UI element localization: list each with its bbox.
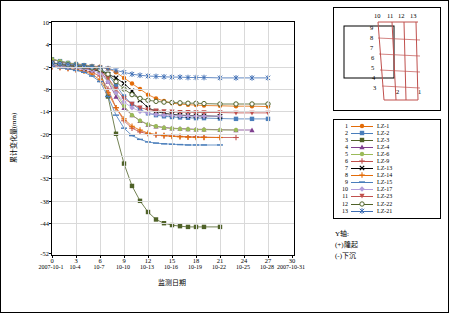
legend-row[interactable]: 11LZ-23 [337, 193, 437, 200]
legend-number: 5 [337, 151, 351, 157]
data-marker [154, 99, 158, 103]
data-marker [360, 166, 364, 170]
x-tick-label: 21 [217, 257, 224, 264]
gridline-h [52, 178, 294, 179]
data-marker [130, 184, 134, 188]
y-axis-label: 累计变化量(mm) [8, 112, 18, 163]
x-tick-mark [76, 255, 77, 258]
data-marker [202, 225, 206, 229]
data-marker [250, 117, 254, 121]
x-tick-mark [268, 255, 269, 258]
legend-label: LZ-2 [373, 130, 389, 136]
data-marker [234, 117, 238, 121]
legend-row[interactable]: 7LZ-13 [337, 165, 437, 172]
x-tick-mark [124, 255, 125, 258]
legend-label: LZ-9 [373, 158, 389, 164]
legend-label: LZ-21 [373, 208, 392, 214]
y-tick-label: -20 [40, 130, 49, 137]
series-line [52, 65, 220, 117]
legend-number: 3 [337, 137, 351, 143]
legend-label: LZ-1 [373, 123, 389, 129]
x-tick-mark [292, 255, 293, 258]
plot-region: 104-2-8-14-20-26-32-38-44-52036912151821… [51, 21, 295, 256]
data-marker [186, 225, 190, 229]
legend-row[interactable]: 13LZ-21 [337, 207, 437, 214]
legend: 1LZ-12LZ-23LZ-34LZ-45LZ-66LZ-97LZ-138LZ-… [333, 119, 441, 219]
diagram-label-1: 1 [418, 88, 421, 95]
y-tick-mark [49, 111, 52, 112]
site-layout-diagram: 10 11 12 13 9 8 7 6 5 4 3 2 1 [333, 7, 441, 111]
diagram-label-4: 4 [372, 74, 375, 81]
legend-row[interactable]: 10LZ-17 [337, 186, 437, 193]
data-marker [138, 119, 142, 123]
notes-line-2: (+)隆起 [335, 240, 445, 251]
data-marker [202, 101, 206, 105]
y-tick-mark [49, 253, 52, 254]
legend-row[interactable]: 4LZ-4 [337, 143, 437, 150]
data-marker [233, 135, 239, 141]
gridline-v [268, 22, 269, 255]
y-tick-label: -14 [40, 108, 49, 115]
data-marker [178, 101, 182, 105]
gridline-h [52, 223, 294, 224]
data-marker [178, 224, 182, 228]
legend-row[interactable]: 9LZ-15 [337, 179, 437, 186]
x-date-label: 10-7 [94, 264, 105, 270]
diagram-label-9: 9 [370, 24, 373, 31]
diagram-label-8: 8 [370, 34, 373, 41]
gridline-h [52, 201, 294, 202]
diagram-label-10: 10 [374, 12, 381, 19]
y-tick-label: -32 [40, 175, 49, 182]
y-tick-label: -52 [40, 250, 49, 257]
y-tick-mark [49, 201, 52, 202]
data-marker [178, 127, 182, 131]
gridline-h [52, 89, 294, 90]
data-marker [138, 96, 142, 100]
gridline-v [76, 22, 77, 255]
data-marker [359, 158, 365, 164]
x-tick-mark [244, 255, 245, 258]
x-date-label: 10-10 [116, 264, 130, 270]
x-tick-label: 3 [74, 257, 77, 264]
data-marker [234, 102, 238, 106]
legend-number: 12 [337, 201, 351, 207]
diagram-label-12: 12 [398, 12, 405, 19]
series-line [52, 65, 220, 117]
diagram-svg [334, 8, 440, 110]
legend-row[interactable]: 5LZ-6 [337, 150, 437, 157]
y-tick-mark [49, 156, 52, 157]
legend-row[interactable]: 1LZ-1 [337, 122, 437, 129]
legend-label: LZ-14 [373, 172, 392, 178]
notes-line-3: (-)下沉 [335, 251, 445, 262]
x-date-label: 2007-10-31 [277, 264, 305, 270]
x-tick-label: 18 [193, 257, 200, 264]
y-tick-mark [49, 22, 52, 23]
data-marker [250, 102, 254, 106]
diagram-label-7: 7 [370, 44, 373, 51]
data-marker [360, 123, 364, 127]
x-date-label: 2007-10-1 [39, 264, 64, 270]
x-date-label: 10-22 [212, 264, 226, 270]
data-marker [154, 217, 158, 221]
legend-row[interactable]: 2LZ-2 [337, 129, 437, 136]
data-marker [186, 101, 190, 105]
legend-label: LZ-13 [373, 165, 392, 171]
legend-row[interactable]: 3LZ-3 [337, 136, 437, 143]
legend-row[interactable]: 6LZ-9 [337, 157, 437, 164]
legend-label: LZ-23 [373, 193, 392, 199]
legend-number: 10 [337, 186, 351, 192]
gridline-v [172, 22, 173, 255]
legend-number: 8 [337, 172, 351, 178]
diagram-label-6: 6 [371, 54, 374, 61]
x-date-label: 10-25 [236, 264, 250, 270]
legend-row[interactable]: 8LZ-14 [337, 172, 437, 179]
legend-row[interactable]: 12LZ-22 [337, 200, 437, 207]
gridline-v [100, 22, 101, 255]
data-marker [360, 201, 364, 205]
diagram-label-13: 13 [410, 12, 417, 19]
notes-line-1: Y轴: [335, 229, 445, 240]
data-marker [154, 124, 158, 128]
data-marker [177, 134, 183, 140]
data-marker [114, 79, 118, 83]
data-marker [234, 128, 238, 132]
